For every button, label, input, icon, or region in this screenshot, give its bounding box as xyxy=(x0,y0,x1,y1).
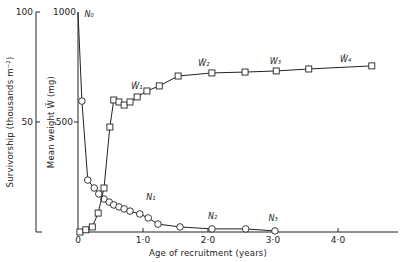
survivorship-point xyxy=(91,185,98,192)
weight-axis-title: Mean weight W̄ (mg) xyxy=(45,76,56,168)
x-tick-label: 2·0 xyxy=(201,235,216,245)
survivorship-point xyxy=(209,226,216,233)
survivorship-point xyxy=(272,228,279,235)
survivorship-series xyxy=(78,12,278,234)
series-annotation: N₀ xyxy=(85,10,95,19)
series-annotation: N₃ xyxy=(268,214,277,223)
weight-point xyxy=(134,94,140,100)
weight-tick-500: 500 xyxy=(56,117,73,127)
x-tick-label: 4·0 xyxy=(331,235,346,245)
weight-point xyxy=(175,73,181,79)
weight-point xyxy=(144,88,150,94)
weight-point xyxy=(242,69,248,75)
survivorship-point xyxy=(242,226,249,233)
survivorship-point xyxy=(96,191,103,198)
survivorship-point xyxy=(155,221,162,228)
weight-point xyxy=(273,68,279,74)
x-tick-label: 1·0 xyxy=(136,235,151,245)
series-annotation: W̄₁ xyxy=(131,81,142,91)
chart: 100 50 Survivorship (thousands m⁻²) 1000… xyxy=(0,0,405,262)
survivorship-point xyxy=(136,211,143,218)
weight-point xyxy=(83,227,89,233)
survivorship-point xyxy=(145,215,152,222)
x-axis: Age of recruitment (years) 01·02·03·04·0 xyxy=(75,228,398,258)
annotations: N₀N₁N₂N₃W̄₁W̄₂W₃W̄₄ xyxy=(85,10,352,223)
weight-point xyxy=(77,229,83,235)
series-layer xyxy=(77,12,375,235)
weight-point xyxy=(209,70,215,76)
survivorship-point xyxy=(79,98,86,105)
survivorship-point xyxy=(127,208,134,215)
weight-point xyxy=(369,63,375,69)
x-axis-title: Age of recruitment (years) xyxy=(149,248,267,258)
x-tick-label: 3·0 xyxy=(266,235,281,245)
series-annotation: N₁ xyxy=(146,193,155,202)
weight-point xyxy=(107,124,113,130)
survivorship-tick-50: 50 xyxy=(22,117,34,127)
weight-point xyxy=(101,185,107,191)
series-annotation: W̄₂ xyxy=(198,58,210,68)
series-annotation: W̄₄ xyxy=(340,54,352,64)
weight-tick-1000: 1000 xyxy=(53,7,76,17)
weight-point xyxy=(89,224,95,230)
weight-point xyxy=(95,210,101,216)
weight-point xyxy=(156,83,162,89)
series-annotation: W₃ xyxy=(270,57,281,66)
weight-point xyxy=(121,102,127,108)
x-tick-label: 0 xyxy=(75,235,81,245)
weight-point xyxy=(306,66,312,72)
weight-point xyxy=(127,99,133,105)
survivorship-axis: 100 50 Survivorship (thousands m⁻²) xyxy=(5,7,42,232)
survivorship-point xyxy=(84,177,91,184)
survivorship-point xyxy=(177,224,184,231)
survivorship-axis-title: Survivorship (thousands m⁻²) xyxy=(5,57,15,188)
series-annotation: N₂ xyxy=(208,212,218,221)
survivorship-tick-100: 100 xyxy=(16,7,33,17)
weight-axis: 1000 500 Mean weight W̄ (mg) xyxy=(45,7,78,232)
